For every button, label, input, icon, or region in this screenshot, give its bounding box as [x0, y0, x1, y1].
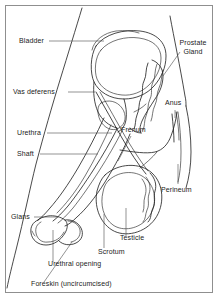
label-foreskin: Foreskin (uncircumcised)	[31, 280, 112, 289]
diagram-frame: Bladder Prostate Gland Vas deferens Anus…	[0, 0, 218, 298]
corpus-cavernosum-line	[57, 125, 111, 213]
label-bladder: Bladder	[19, 37, 44, 46]
bladder-inner-lining	[95, 38, 161, 96]
bladder-base-outline	[94, 82, 117, 128]
testicle-outline	[102, 173, 155, 229]
label-perineum: Perineum	[161, 186, 192, 195]
scrotum-root-line	[140, 152, 157, 168]
prostate-lobe-wavy-3	[151, 70, 163, 121]
buttock-inner-contour	[178, 112, 181, 182]
label-vas-deferens: Vas deferens	[13, 88, 55, 97]
label-frenum: Frenum	[121, 126, 146, 135]
urethral-opening-mark	[32, 231, 35, 236]
epididymis-outer	[148, 173, 156, 222]
label-scrotum: Scrotum	[98, 248, 125, 257]
leader-frenum	[118, 136, 131, 161]
glans-inner-contour	[36, 222, 64, 242]
foreskin-outline	[59, 220, 82, 245]
label-shaft: Shaft	[17, 150, 34, 159]
abdominal-wall-outline	[7, 8, 82, 288]
label-urethral-opening: Urethral opening	[48, 260, 101, 269]
prostate-lobe-wavy-2	[143, 64, 157, 130]
prostate-lobe-outer	[140, 60, 163, 133]
buttock-outer-contour	[186, 106, 191, 188]
label-prostate-gland: Prostate Gland	[172, 38, 214, 56]
penis-shaft-ventral	[65, 134, 130, 226]
epididymis-ridge	[142, 179, 146, 212]
label-prostate-gland-line2: Gland	[172, 47, 214, 56]
prostate-duct-lines	[134, 104, 146, 112]
label-testicle: Testicle	[120, 234, 144, 243]
label-anus: Anus	[165, 99, 181, 108]
label-glans: Glans	[11, 213, 30, 222]
label-prostate-gland-line1: Prostate	[172, 38, 214, 47]
label-urethra: Urethra	[17, 129, 41, 138]
upper-body-right-contour	[170, 16, 186, 106]
